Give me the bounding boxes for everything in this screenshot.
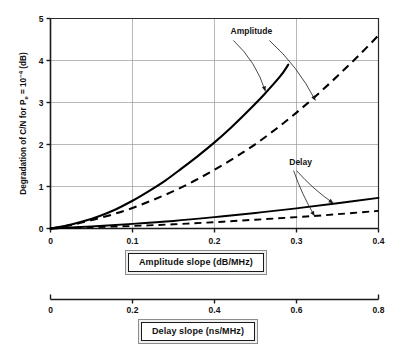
degradation-vs-slope-chart: AmplitudeDelay 01234500.10.20.30.4 Degra… <box>0 0 410 355</box>
delay-slope-caption-box: Delay slope (ns/MHz) <box>138 319 258 344</box>
axis-tick-labels: 01234500.10.20.30.4 <box>39 14 385 246</box>
gridlines <box>51 19 379 229</box>
y-axis-label: Degradation of C/N for Pe = 10−4 (dB) <box>18 52 30 195</box>
amplitude-slope-caption-label: Amplitude slope (dB/MHz) <box>128 253 264 272</box>
y-tick-label: 4 <box>39 56 44 66</box>
y-tick-label: 5 <box>39 14 44 24</box>
x-tick-label-secondary: 0 <box>48 305 53 315</box>
amplitude-annotation-label: Amplitude <box>231 26 273 36</box>
y-axis-label-text: Degradation of C/N for Pe = 10−4 (dB) <box>18 52 30 195</box>
x-tick-label-secondary: 0.6 <box>291 305 303 315</box>
y-tick-label: 1 <box>39 182 44 192</box>
x-tick-label-secondary: 0.4 <box>209 305 221 315</box>
x-tick-label-secondary: 0.2 <box>127 305 139 315</box>
y-tick-label: 2 <box>39 140 44 150</box>
x-tick-label-primary: 0 <box>48 236 53 246</box>
delay-annotation-label: Delay <box>289 157 312 167</box>
secondary-x-axis: 00.20.40.60.8 <box>48 295 385 315</box>
x-tick-label-primary: 0.4 <box>373 236 385 246</box>
delay-slope-caption-label: Delay slope (ns/MHz) <box>141 322 255 341</box>
amplitude-leader-solid <box>233 40 265 91</box>
x-tick-label-primary: 0.1 <box>127 236 139 246</box>
y-axis-label-group: Degradation of C/N for Pe = 10−4 (dB) <box>18 52 30 195</box>
amplitude-leader-dashed <box>269 40 315 100</box>
leader-arrowhead <box>328 199 333 203</box>
curve-annotations: AmplitudeDelay <box>231 26 334 215</box>
leader-arrowhead <box>262 86 266 91</box>
amplitude-slope-caption-box: Amplitude slope (dB/MHz) <box>125 250 267 275</box>
x-tick-label-primary: 0.3 <box>291 236 303 246</box>
x-tick-label-primary: 0.2 <box>209 236 221 246</box>
y-tick-label: 3 <box>39 98 44 108</box>
x-tick-label-secondary: 0.8 <box>373 305 385 315</box>
chart-figure: AmplitudeDelay 01234500.10.20.30.4 Degra… <box>0 0 410 355</box>
delay-leader-solid <box>297 171 334 204</box>
y-tick-label: 0 <box>39 224 44 234</box>
